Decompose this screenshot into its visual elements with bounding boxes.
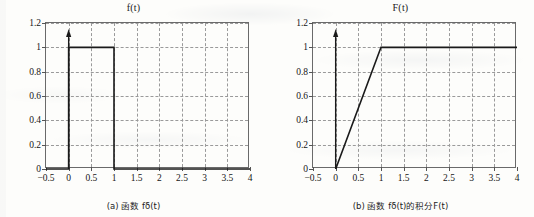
arrow-head-icon bbox=[333, 29, 338, 37]
x-axis-tick-label: 4 bbox=[248, 173, 253, 183]
x-axis-tick-label: −0.5 bbox=[304, 173, 321, 183]
chart-title-b: F(t) bbox=[267, 2, 534, 13]
caption-text-b: (b) 函数 fδ(t)的积分F(t) bbox=[353, 201, 448, 211]
x-axis-tick-label: 0.5 bbox=[352, 173, 364, 183]
x-axis-tick-label: 4 bbox=[515, 173, 520, 183]
y-axis-tick-label: 0.6 bbox=[29, 91, 46, 101]
x-axis-tick-label: 1 bbox=[379, 173, 384, 183]
x-axis-tick-label: 3 bbox=[202, 173, 207, 183]
y-axis-tick-label: 0.6 bbox=[296, 91, 313, 101]
x-axis-tick-label: 3.5 bbox=[488, 173, 500, 183]
y-axis-tick-label: 0 bbox=[36, 164, 46, 174]
data-curve-layer bbox=[46, 23, 250, 169]
plot-panel-b: F(t) −0.500.511.522.533.5400.20.40.60.81… bbox=[267, 0, 534, 217]
x-axis-tick-label: 1.5 bbox=[398, 173, 410, 183]
x-axis-tick-label: 3.5 bbox=[221, 173, 233, 183]
series-line bbox=[46, 47, 250, 169]
y-axis-tick-label: 1 bbox=[303, 42, 313, 52]
chart-title-a: f(t) bbox=[0, 2, 267, 13]
x-axis-tick-label: 2 bbox=[157, 173, 162, 183]
x-axis-tick-label: 2.5 bbox=[443, 173, 455, 183]
plot-panel-a: f(t) −0.500.511.522.533.5400.20.40.60.81… bbox=[0, 0, 267, 217]
x-axis-tick bbox=[517, 167, 518, 171]
y-axis-tick-label: 0.2 bbox=[296, 140, 313, 150]
figure-caption-b: (b) 函数 fδ(t)的积分F(t) bbox=[267, 199, 534, 211]
x-axis-tick-label: 0.5 bbox=[85, 173, 97, 183]
x-axis-tick-label: 0 bbox=[333, 173, 338, 183]
y-axis-tick-label: 1 bbox=[36, 42, 46, 52]
y-axis-tick-label: 1.2 bbox=[29, 18, 46, 28]
series-line bbox=[336, 47, 517, 169]
y-axis-tick-label: 0.8 bbox=[29, 67, 46, 77]
x-axis-tick-label: −0.5 bbox=[37, 173, 54, 183]
x-axis-tick-label: 2.5 bbox=[176, 173, 188, 183]
x-axis-tick bbox=[250, 167, 251, 171]
figure-caption-a: (a) 函数 fδ(t) bbox=[0, 199, 267, 211]
x-axis-tick-label: 2 bbox=[424, 173, 429, 183]
plot-area-a: −0.500.511.522.533.5400.20.40.60.811.2 bbox=[45, 22, 249, 168]
y-axis-tick-label: 0.8 bbox=[296, 67, 313, 77]
y-axis-tick-label: 0.2 bbox=[29, 140, 46, 150]
y-axis-tick-label: 0.4 bbox=[296, 115, 313, 125]
y-axis-tick-label: 0.4 bbox=[29, 115, 46, 125]
y-axis-tick-label: 1.2 bbox=[296, 18, 313, 28]
data-curve-layer bbox=[313, 23, 517, 169]
plot-area-b: −0.500.511.522.533.5400.20.40.60.811.2 bbox=[312, 22, 516, 168]
x-axis-tick-label: 0 bbox=[66, 173, 71, 183]
y-axis-tick-label: 0 bbox=[303, 164, 313, 174]
x-axis-tick-label: 1.5 bbox=[131, 173, 143, 183]
caption-text-a: (a) 函数 fδ(t) bbox=[107, 201, 160, 211]
x-axis-tick-label: 1 bbox=[112, 173, 117, 183]
figure-two-panel-plot: f(t) −0.500.511.522.533.5400.20.40.60.81… bbox=[0, 0, 534, 217]
arrow-head-icon bbox=[66, 29, 71, 37]
x-axis-tick-label: 3 bbox=[469, 173, 474, 183]
